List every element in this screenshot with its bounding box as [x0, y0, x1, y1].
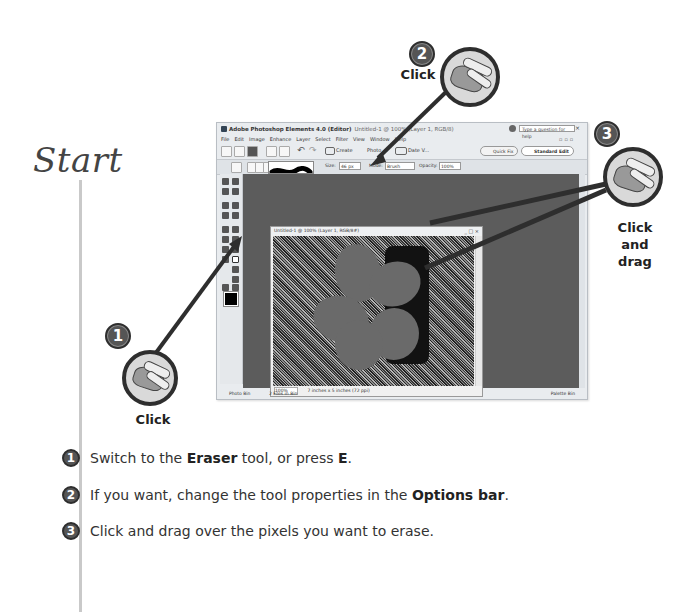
step-number-badge: 2: [62, 486, 80, 504]
step-number-badge: 3: [62, 522, 80, 540]
step-text: Click and drag over the pixels you want …: [90, 523, 434, 539]
mouse-drag-icon: [603, 147, 663, 207]
step-number-badge: 1: [62, 449, 80, 467]
callout-badge-2: 2: [409, 41, 435, 67]
step-1: 1 Switch to the Eraser tool, or press E.: [62, 449, 352, 467]
callout-arrows: [0, 0, 698, 612]
mouse-click-icon: [122, 350, 178, 406]
callout-label-2: Click: [393, 66, 443, 83]
mouse-click-icon: [440, 47, 500, 107]
step-text: If you want, change the tool properties …: [90, 487, 509, 503]
step-text: Switch to the Eraser tool, or press E.: [90, 450, 352, 466]
callout-label-1: Click: [128, 411, 178, 428]
callout-badge-1: 1: [105, 323, 131, 349]
callout-arrow-1: [147, 244, 236, 365]
step-2: 2 If you want, change the tool propertie…: [62, 486, 509, 504]
callout-label-3: Click and drag: [603, 219, 667, 270]
callout-badge-3: 3: [594, 121, 620, 147]
step-3: 3 Click and drag over the pixels you wan…: [62, 522, 434, 540]
callout-arrow-2: [378, 92, 446, 158]
